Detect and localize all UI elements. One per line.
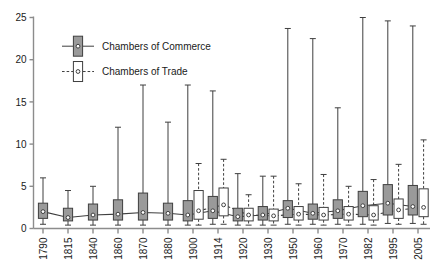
median-marker <box>41 210 45 214</box>
box-trade-2005 <box>419 140 428 224</box>
box-trade-1970 <box>344 186 353 225</box>
median-marker <box>116 212 120 216</box>
legend-label: Chambers of Trade <box>102 66 188 77</box>
y-tick-label: 20 <box>15 54 27 65</box>
median-marker <box>336 209 340 213</box>
box-commerce-1870 <box>138 85 147 225</box>
box-iqr <box>194 191 203 220</box>
x-tick-label: 1914 <box>213 237 224 260</box>
median-marker <box>261 213 265 217</box>
legend-label: Chambers of Commerce <box>102 41 211 52</box>
chart-container: 0510152025179018151840186018701880190019… <box>0 0 443 268</box>
y-tick-label: 25 <box>15 12 27 23</box>
box-commerce-1920 <box>233 174 242 225</box>
legend-median-marker <box>76 70 80 74</box>
x-tick-label: 1960 <box>313 237 324 260</box>
x-tick-label: 1900 <box>188 237 199 260</box>
median-marker <box>372 213 376 217</box>
box-commerce-1900 <box>183 85 192 225</box>
box-commerce-1790 <box>38 178 47 224</box>
median-marker <box>322 213 326 217</box>
box-commerce-1840 <box>88 186 97 225</box>
legend-median-marker <box>76 44 80 48</box>
x-tick-label: 1982 <box>363 237 374 260</box>
median-marker <box>186 213 190 217</box>
x-tick-label: 1920 <box>238 237 249 260</box>
box-trade-1982 <box>369 180 378 226</box>
median-marker <box>211 209 215 213</box>
median-marker <box>166 211 170 215</box>
box-trade-1950 <box>294 184 303 225</box>
median-marker <box>311 211 315 215</box>
box-commerce-2005 <box>408 26 417 223</box>
median-marker <box>397 208 401 212</box>
x-tick-label: 1930 <box>263 237 274 260</box>
x-tick-label: 1870 <box>138 237 149 260</box>
x-tick-label: 1860 <box>113 237 124 260</box>
box-iqr <box>219 188 228 216</box>
x-tick-label: 1995 <box>388 237 399 260</box>
box-commerce-1860 <box>113 127 122 225</box>
box-iqr <box>383 185 392 215</box>
box-commerce-1880 <box>163 122 172 225</box>
box-iqr <box>208 196 217 218</box>
median-marker <box>422 206 426 210</box>
x-tick-label: 1840 <box>88 237 99 260</box>
median-marker <box>272 214 276 218</box>
x-tick-label: 1790 <box>38 237 49 260</box>
y-tick-label: 0 <box>21 223 27 234</box>
median-marker <box>91 213 95 217</box>
median-marker <box>141 211 145 215</box>
box-commerce-1950 <box>283 28 292 224</box>
median-marker <box>222 203 226 207</box>
x-tick-label: 1880 <box>163 237 174 260</box>
box-trade-1960 <box>319 174 328 225</box>
box-trade-1920 <box>244 195 253 225</box>
boxplot-chart: 0510152025179018151840186018701880190019… <box>0 0 443 268</box>
median-marker <box>386 201 390 205</box>
box-commerce-1960 <box>308 39 317 225</box>
y-tick-label: 5 <box>21 181 27 192</box>
median-marker <box>286 206 290 210</box>
box-iqr <box>88 204 97 220</box>
box-commerce-1970 <box>333 108 342 224</box>
median-marker <box>247 213 251 217</box>
median-marker <box>236 215 240 219</box>
box-iqr <box>183 201 192 221</box>
y-tick-label: 10 <box>15 139 27 150</box>
x-tick-label: 2005 <box>413 237 424 260</box>
median-marker <box>66 216 70 220</box>
box-iqr <box>113 200 122 220</box>
box-commerce-1982 <box>358 18 367 225</box>
box-trade-1914 <box>219 159 228 224</box>
median-marker <box>411 205 415 209</box>
legend-item-trade: Chambers of Trade <box>62 62 188 82</box>
box-trade-1900 <box>194 164 203 226</box>
box-commerce-1995 <box>383 21 392 224</box>
median-marker <box>297 212 301 216</box>
box-iqr <box>408 185 417 215</box>
box-trade-1930 <box>269 176 278 225</box>
legend-item-commerce: Chambers of Commerce <box>62 36 211 56</box>
x-tick-label: 1970 <box>338 237 349 260</box>
box-trade-1995 <box>394 164 403 224</box>
y-tick-label: 15 <box>15 97 27 108</box>
x-tick-label: 1815 <box>63 237 74 260</box>
box-commerce-1914 <box>208 91 217 224</box>
median-marker <box>197 209 201 213</box>
box-iqr <box>138 193 147 220</box>
box-commerce-1815 <box>63 191 72 226</box>
box-iqr <box>419 189 428 217</box>
box-commerce-1930 <box>258 176 267 225</box>
median-marker <box>361 204 365 208</box>
x-tick-label: 1950 <box>288 237 299 260</box>
median-marker <box>347 212 351 216</box>
